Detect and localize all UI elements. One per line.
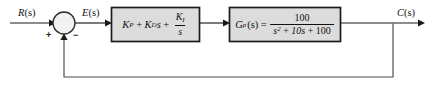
diagram-canvas — [0, 0, 434, 89]
output-arrowhead — [418, 19, 425, 26]
controller-plus-operator-1: + — [134, 19, 145, 30]
ki-subscript: I — [182, 16, 184, 24]
plant-denominator-linear-term: 10s — [291, 25, 305, 36]
summing-junction-minus-sign: − — [73, 31, 78, 40]
output-signal-name: C — [397, 7, 404, 18]
pid-controller-expression: KP+KDs+ KI s — [111, 7, 200, 42]
summing-junction-plus-sign: + — [46, 31, 51, 40]
error-signal-label: E(s) — [82, 8, 100, 19]
plant-transfer-fraction: 100 s2+10s+100 — [270, 13, 334, 36]
output-signal-label: C(s) — [397, 8, 415, 19]
reference-signal-label: R(s) — [18, 8, 36, 19]
plant-function-argument: (s) — [246, 19, 258, 30]
ki-fraction-denominator: s — [175, 25, 185, 37]
plant-equals-operator: = — [258, 19, 269, 30]
ki-over-s-fraction: KI s — [173, 12, 188, 37]
plant-denominator-constant: 100 — [316, 25, 331, 36]
plant-numerator: 100 — [292, 13, 313, 24]
controller-plus-operator-2: + — [161, 19, 172, 30]
plant-expression: Gp(s)= 100 s2+10s+100 — [230, 7, 340, 42]
output-signal-arg: (s) — [404, 7, 415, 18]
plant-function-symbol: G — [235, 19, 243, 30]
plant-denominator-plus-1: + — [281, 25, 292, 36]
kd-gain-symbol: K — [145, 19, 152, 30]
summing-junction-circle — [53, 12, 75, 34]
plant-denominator: s2+10s+100 — [270, 24, 334, 36]
block-diagram-figure: R(s) E(s) C(s) + − KP+KDs+ KI s Gp(s)= 1… — [0, 0, 434, 89]
ki-fraction-numerator: KI — [173, 12, 188, 25]
plant-denominator-plus-2: + — [305, 25, 316, 36]
error-signal-arg: (s) — [88, 7, 99, 18]
feedback-input-arrowhead — [60, 34, 67, 41]
reference-signal-arg: (s) — [24, 7, 35, 18]
